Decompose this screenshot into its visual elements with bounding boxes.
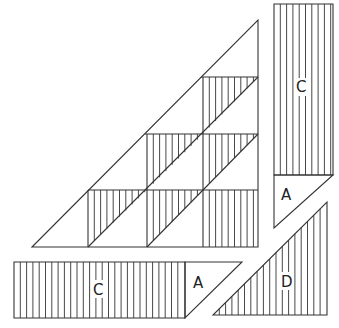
diagonal-3: [203, 190, 258, 247]
diagonal-1: [88, 77, 258, 247]
label-bottom-a: A: [193, 274, 204, 292]
hatch-layer: [20, 4, 330, 318]
label-corner-d: D: [281, 273, 293, 291]
outline-layer: [14, 4, 333, 318]
quilt-diagram: C A C A D: [0, 0, 339, 328]
diagram-canvas: C A C A D: [0, 0, 339, 328]
label-bottom-c: C: [93, 281, 103, 299]
label-right-a: A: [281, 186, 292, 204]
label-right-c: C: [296, 78, 306, 96]
label-layer: C A C A D: [92, 78, 309, 299]
